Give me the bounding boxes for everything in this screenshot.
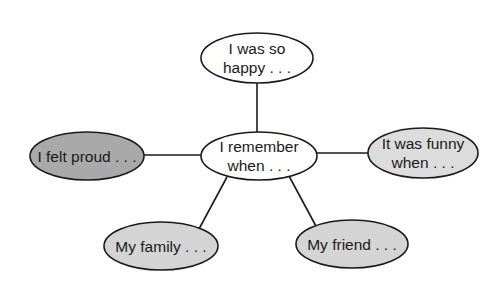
node-center: I rememberwhen . . .	[201, 132, 317, 180]
node-right: It was funnywhen . . .	[368, 128, 478, 178]
node-top-label-line: I was so	[229, 40, 286, 57]
node-center-label-line: when . . .	[227, 157, 291, 174]
nodes: I rememberwhen . . .I was sohappy . . .I…	[30, 33, 478, 270]
node-center-label-line: I remember	[219, 138, 298, 155]
node-right-label-line: when . . .	[391, 154, 455, 171]
connector-center-to-bottom-left	[199, 177, 227, 229]
node-left-label-line: I felt proud . . .	[37, 148, 136, 165]
node-bottom-left-label-line: My family . . .	[115, 238, 206, 255]
node-bottom-left: My family . . .	[104, 222, 218, 270]
node-top-label-line: happy . . .	[223, 59, 291, 76]
concept-web-diagram: I rememberwhen . . .I was sohappy . . .I…	[0, 0, 503, 292]
node-bottom-right: My friend . . .	[296, 220, 408, 268]
node-left: I felt proud . . .	[30, 132, 144, 180]
node-bottom-right-label-line: My friend . . .	[307, 236, 397, 253]
node-right-label-line: It was funny	[382, 135, 465, 152]
connector-center-to-bottom-right	[289, 176, 317, 228]
node-top: I was sohappy . . .	[201, 33, 313, 83]
